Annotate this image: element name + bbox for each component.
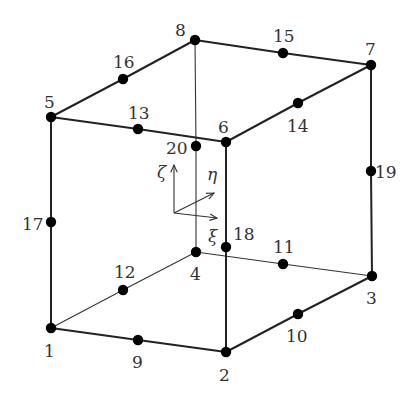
axis-xi-label: ξ	[208, 226, 219, 246]
node-7-label: 7	[365, 39, 376, 59]
node-14-label: 14	[287, 116, 309, 136]
node-7-dot	[366, 60, 376, 70]
node-10-label: 10	[286, 326, 308, 346]
node-11-dot	[278, 259, 288, 269]
node-4-label: 4	[190, 264, 201, 284]
node-13-label: 13	[128, 103, 150, 123]
node-9-label: 9	[132, 352, 143, 372]
axis-eta-line	[174, 193, 214, 213]
node-5-label: 5	[44, 92, 55, 112]
axis-zeta-label: ζ	[157, 162, 168, 182]
node-3-label: 3	[366, 288, 377, 308]
node-2-dot	[221, 347, 231, 357]
node-8-dot	[190, 35, 200, 45]
node-1-dot	[46, 323, 56, 333]
node-20-label: 20	[166, 138, 188, 158]
hidden-edges	[51, 40, 372, 328]
node-13-dot	[133, 124, 143, 134]
local-coordinate-axes: ζηξ	[157, 162, 219, 246]
node-10-dot	[293, 309, 303, 319]
node-5-dot	[46, 112, 56, 122]
node-16-dot	[118, 74, 128, 84]
node-17-dot	[46, 217, 56, 227]
node-3-dot	[367, 271, 377, 281]
node-12-dot	[118, 285, 128, 295]
node-11-label: 11	[273, 237, 295, 257]
node-18-dot	[221, 242, 231, 252]
node-6-label: 6	[218, 117, 229, 137]
node-6-dot	[221, 137, 231, 147]
node-14-dot	[293, 98, 303, 108]
node-20-dot	[191, 141, 201, 151]
node-19-label: 19	[375, 162, 397, 182]
node-12-label: 12	[114, 262, 136, 282]
node-17-label: 17	[22, 214, 44, 234]
node-18-label: 18	[233, 224, 255, 244]
node-labels: 1234567891011121314151617181920	[22, 20, 397, 385]
node-15-dot	[278, 48, 288, 58]
node-9-dot	[133, 335, 143, 345]
node-4-dot	[191, 247, 201, 257]
hexahedral-element-diagram: ζηξ 1234567891011121314151617181920	[0, 0, 408, 409]
node-8-label: 8	[175, 20, 186, 40]
node-15-label: 15	[273, 26, 295, 46]
node-1-label: 1	[44, 341, 55, 361]
axis-eta-label: η	[207, 164, 218, 184]
node-16-label: 16	[113, 52, 135, 72]
node-2-label: 2	[219, 365, 230, 385]
